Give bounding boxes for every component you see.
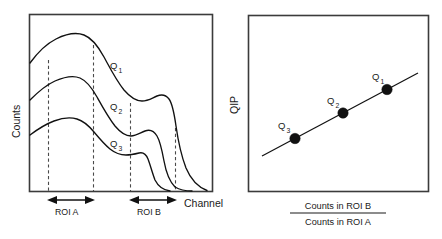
figure-canvas: Q 1 Q 2 Q 3 Counts Channel <box>0 0 442 239</box>
spectrum-panel: Q 1 Q 2 Q 3 Counts Channel <box>10 15 223 218</box>
point-label-q3-subscript: 3 <box>287 127 291 134</box>
data-point-q2 <box>338 108 348 118</box>
data-point-q3 <box>290 133 300 143</box>
roi-a-arrow-head-left <box>47 196 57 204</box>
curve-label-q2-base: Q <box>110 101 117 112</box>
curve-label-q3-subscript: 3 <box>119 145 123 152</box>
point-label-q2-subscript: 2 <box>336 102 340 109</box>
point-label-q1-subscript: 1 <box>381 78 385 85</box>
curve-label-q1-base: Q <box>110 60 117 71</box>
roi-b-arrow-head-right <box>167 196 177 204</box>
spectrum-x-axis-label: Channel <box>184 197 223 209</box>
qip-x-axis-fraction-label: Counts in ROI B Counts in ROI A <box>290 201 386 227</box>
figure-root: Q 1 Q 2 Q 3 Counts Channel <box>0 0 442 239</box>
roi-a-arrow <box>47 196 95 204</box>
roi-a-arrow-head-right <box>85 196 95 204</box>
curve-label-q1-subscript: 1 <box>119 67 123 74</box>
roi-b-arrow-head-left <box>129 196 139 204</box>
qip-y-axis-label: QIP <box>228 96 240 114</box>
roi-a-label: ROI A <box>55 207 79 217</box>
point-label-q3-base: Q <box>278 120 285 131</box>
roi-b-label: ROI B <box>137 207 161 217</box>
point-label-q2-base: Q <box>327 95 334 106</box>
data-point-q1 <box>382 84 392 94</box>
fraction-numerator: Counts in ROI B <box>305 201 371 211</box>
curve-label-q2-subscript: 2 <box>119 108 123 115</box>
curve-label-q3-base: Q <box>110 138 117 149</box>
qip-panel: Q 3 Q 2 Q 1 QIP Counts in ROI B Counts i… <box>228 16 429 228</box>
roi-b-arrow <box>129 196 177 204</box>
point-label-q1-base: Q <box>372 71 379 82</box>
fraction-denominator: Counts in ROI A <box>305 217 372 227</box>
spectrum-y-axis-label: Counts <box>10 105 22 138</box>
